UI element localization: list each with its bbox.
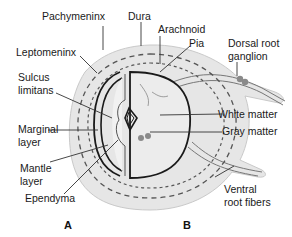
- label-pachymeninx: Pachymeninx: [42, 10, 106, 22]
- label-marginal-layer-1: Marginal: [18, 123, 58, 135]
- label-white-matter: White matter: [218, 108, 278, 120]
- label-arachnoid: Arachnoid: [158, 23, 205, 35]
- label-dura: Dura: [128, 10, 151, 22]
- label-marginal-layer-2: layer: [18, 136, 41, 148]
- motor-neuron: [138, 135, 144, 141]
- label-mantle-layer-2: layer: [20, 175, 43, 187]
- label-pia: Pia: [189, 37, 204, 49]
- label-sulcus-limitans-1: Sulcus: [18, 71, 50, 83]
- label-dorsal-root-ganglion-1: Dorsal root: [228, 37, 279, 49]
- label-leptomeninx: Leptomeninx: [16, 46, 77, 58]
- dorsal-root-ganglion: [242, 79, 248, 85]
- motor-neuron: [145, 133, 151, 139]
- label-ventral-root-fibers-1: Ventral: [224, 183, 257, 195]
- label-sulcus-limitans-2: limitans: [18, 84, 54, 96]
- label-ependyma: Ependyma: [25, 192, 75, 204]
- panel-label-a: A: [64, 219, 72, 231]
- label-ventral-root-fibers-2: root fibers: [224, 196, 271, 208]
- label-dorsal-root-ganglion-2: ganglion: [228, 50, 268, 62]
- label-mantle-layer-1: Mantle: [20, 162, 52, 174]
- label-gray-matter: Gray matter: [222, 125, 278, 137]
- spinal-cord-diagram: Pachymeninx Dura Arachnoid Pia Leptomeni…: [0, 0, 292, 237]
- panel-label-b: B: [183, 219, 191, 231]
